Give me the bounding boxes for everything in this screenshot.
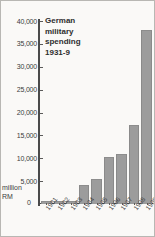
y-axis-tick-label: 10,000 — [3, 155, 37, 162]
bar-slot — [141, 19, 152, 204]
bar-slot — [129, 19, 140, 204]
y-axis-tick-label: 40,000 — [3, 18, 37, 25]
bar-1939[interactable] — [141, 30, 152, 204]
bar-slot — [116, 19, 127, 204]
bar-slot — [79, 19, 90, 204]
y-axis-tick-mark — [40, 44, 43, 45]
y-axis-zero-label: 0 — [27, 199, 31, 206]
y-axis-labels: 40,00035,00030,00025,00020,00015,00010,0… — [1, 1, 37, 237]
y-axis-tick-label: 20,000 — [3, 109, 37, 116]
y-axis-tick-mark — [40, 113, 43, 114]
y-axis-tick-mark — [40, 67, 43, 68]
y-axis-tick-mark — [40, 21, 43, 22]
y-axis-tick-label: 15,000 — [3, 132, 37, 139]
y-axis-tick-label: 30,000 — [3, 63, 37, 70]
bar-slot — [41, 19, 52, 204]
bar-slot — [104, 19, 115, 204]
chart-card: 40,00035,00030,00025,00020,00015,00010,0… — [0, 0, 155, 237]
y-axis-unit-line: million — [2, 184, 35, 193]
x-axis-labels: 193119321933193419351936193719381939 — [40, 205, 153, 237]
y-axis-tick-mark — [40, 90, 43, 91]
bar-slot — [54, 19, 65, 204]
y-axis-tick-mark — [40, 135, 43, 136]
y-axis-tick-label: 25,000 — [3, 86, 37, 93]
bar-slot — [66, 19, 77, 204]
bar-series — [40, 19, 153, 204]
y-axis-tick-mark — [40, 181, 43, 182]
bar-slot — [91, 19, 102, 204]
y-axis-tick-mark — [40, 158, 43, 159]
y-axis-tick-label: 35,000 — [3, 40, 37, 47]
